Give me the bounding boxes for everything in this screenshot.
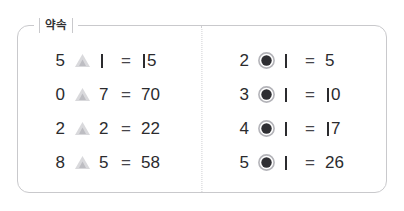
digit: 3 (240, 85, 249, 104)
equation-row: 85=58 (18, 151, 202, 173)
equals-sign: = (119, 120, 133, 137)
equals-sign: = (303, 120, 317, 137)
worksheet-canvas: 약속 5=507=7022=2285=58 2=53=04=75=26 (0, 0, 404, 211)
equation-left-operand: 4 (237, 120, 249, 137)
triangle-operator-icon (73, 119, 91, 137)
right-equation-column: 2=53=04=75=26 (202, 45, 386, 173)
digit: 4 (240, 119, 249, 138)
digit: 5 (99, 153, 108, 172)
digit-one-stroke (285, 88, 287, 102)
equation-row: 2=5 (202, 49, 386, 71)
digit: 0 (56, 85, 65, 104)
digit-one-stroke (285, 156, 287, 170)
digit-one-stroke (143, 54, 145, 68)
equation-right-operand (283, 52, 295, 69)
digit-one-stroke (285, 54, 287, 68)
triangle-operator-icon (73, 153, 91, 171)
digit: 6 (334, 153, 343, 172)
digit: 5 (147, 51, 156, 70)
equals-sign: = (119, 52, 133, 69)
equals-sign: = (303, 154, 317, 171)
triangle-operator-icon (73, 85, 91, 103)
digit: 7 (99, 85, 108, 104)
equals-sign: = (119, 154, 133, 171)
digit: 0 (150, 85, 159, 104)
digit: 5 (56, 51, 65, 70)
equation-result: 58 (141, 154, 167, 171)
bullseye-operator-icon (257, 153, 275, 171)
equation-result: 7 (325, 120, 351, 137)
bullseye-operator-icon (257, 51, 275, 69)
equation-left-operand: 2 (237, 52, 249, 69)
equals-sign: = (303, 52, 317, 69)
equation-right-operand: 5 (99, 154, 111, 171)
digit: 5 (240, 153, 249, 172)
equation-left-operand: 5 (53, 52, 65, 69)
equation-left-operand: 8 (53, 154, 65, 171)
equation-row: 5=26 (202, 151, 386, 173)
equation-result: 5 (141, 52, 167, 69)
equation-left-operand: 3 (237, 86, 249, 103)
equals-sign: = (119, 86, 133, 103)
equation-right-operand (99, 52, 111, 69)
bullseye-operator-icon (257, 85, 275, 103)
digit-one-stroke (327, 122, 329, 136)
equation-right-operand (283, 154, 295, 171)
equation-row: 5=5 (18, 49, 202, 71)
equation-right-operand (283, 86, 295, 103)
digit: 0 (331, 85, 340, 104)
triangle-operator-icon (73, 51, 91, 69)
left-equation-column: 5=507=7022=2285=58 (18, 45, 202, 173)
equation-columns: 5=507=7022=2285=58 2=53=04=75=26 (18, 26, 386, 192)
equation-row: 4=7 (202, 117, 386, 139)
digit: 2 (240, 51, 249, 70)
digit: 8 (150, 153, 159, 172)
digit-one-stroke (101, 54, 103, 68)
equation-result: 70 (141, 86, 167, 103)
equation-left-operand: 0 (53, 86, 65, 103)
equation-result: 5 (325, 52, 351, 69)
equation-row: 22=22 (18, 117, 202, 139)
equation-left-operand: 5 (237, 154, 249, 171)
equation-row: 07=70 (18, 83, 202, 105)
equals-sign: = (303, 86, 317, 103)
equation-left-operand: 2 (53, 120, 65, 137)
digit: 2 (150, 119, 159, 138)
equation-right-operand: 2 (99, 120, 111, 137)
bullseye-operator-icon (257, 119, 275, 137)
equation-right-operand (283, 120, 295, 137)
digit: 2 (99, 119, 108, 138)
digit: 2 (56, 119, 65, 138)
digit: 8 (56, 153, 65, 172)
equation-right-operand: 7 (99, 86, 111, 103)
rule-panel: 약속 5=507=7022=2285=58 2=53=04=75=26 (17, 25, 387, 193)
digit: 5 (325, 51, 334, 70)
equation-result: 22 (141, 120, 167, 137)
digit: 7 (331, 119, 340, 138)
equation-result: 0 (325, 86, 351, 103)
digit-one-stroke (327, 88, 329, 102)
equation-row: 3=0 (202, 83, 386, 105)
equation-result: 26 (325, 154, 351, 171)
digit-one-stroke (285, 122, 287, 136)
